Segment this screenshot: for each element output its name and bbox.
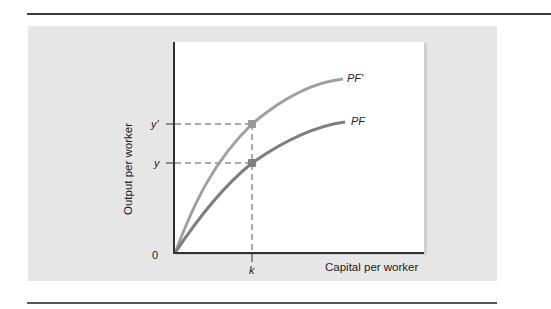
x-axis-label: Capital per worker <box>325 261 418 273</box>
production-function-chart: y' y 0 k Capital per worker Output per w… <box>0 0 551 309</box>
origin-label: 0 <box>152 249 158 261</box>
pf-label: PF <box>351 115 366 127</box>
k-label: k <box>249 264 255 276</box>
y-prime-label: y' <box>150 118 160 130</box>
point-yprime <box>248 120 256 128</box>
point-y <box>248 159 256 167</box>
y-label: y <box>153 157 161 169</box>
plot-area <box>174 42 424 253</box>
y-axis-label: Output per worker <box>122 123 134 215</box>
pf-prime-label: PF' <box>347 72 364 84</box>
